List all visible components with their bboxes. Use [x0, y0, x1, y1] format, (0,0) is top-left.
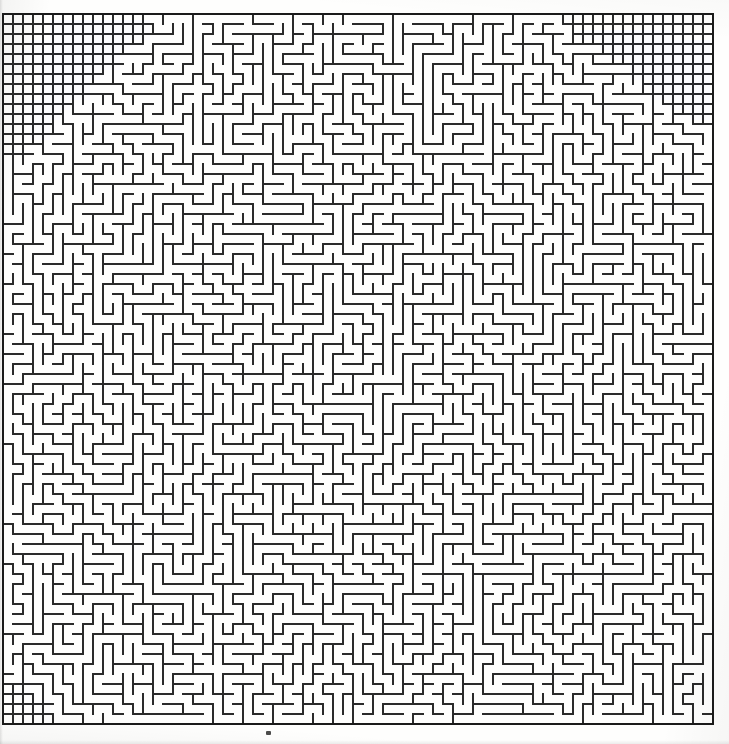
maze-figure	[0, 0, 729, 744]
maze-wall-layer	[3, 14, 713, 724]
maze-page	[0, 0, 729, 744]
maze-walls-path	[3, 14, 713, 724]
ink-speck-bottom	[266, 731, 271, 735]
maze-outer-border	[3, 14, 713, 724]
maze-border-rect	[3, 14, 713, 724]
